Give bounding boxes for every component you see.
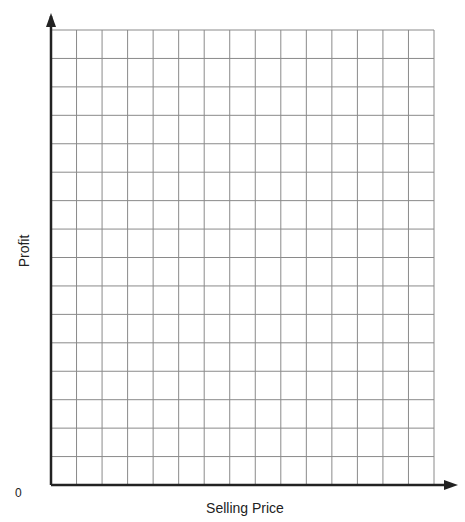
x-axis-arrow-icon: [444, 480, 458, 490]
x-axis-label: Selling Price: [0, 500, 465, 516]
y-axis-label: Profit: [16, 229, 32, 273]
origin-label: 0: [15, 486, 22, 500]
graph-grid: [0, 0, 465, 522]
y-axis-arrow-icon: [46, 13, 56, 27]
